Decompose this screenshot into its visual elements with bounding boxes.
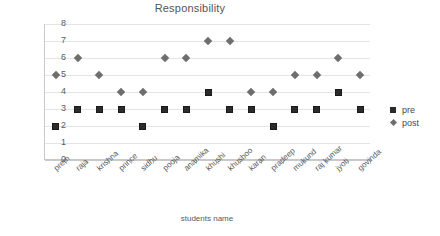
data-point-post	[204, 37, 212, 45]
gridline	[45, 24, 370, 25]
y-axis-tick-label: 4	[38, 86, 66, 96]
y-axis-tick-label: 7	[38, 35, 66, 45]
data-point-pre	[270, 123, 277, 130]
data-point-post	[182, 54, 190, 62]
data-point-post	[247, 88, 255, 96]
y-axis-tick-label: 6	[38, 52, 66, 62]
legend-label-pre: pre	[402, 105, 415, 115]
data-point-pre	[335, 89, 342, 96]
data-point-pre	[313, 106, 320, 113]
gridline	[45, 109, 370, 110]
data-point-pre	[161, 106, 168, 113]
gridline	[45, 143, 370, 144]
data-point-pre	[291, 106, 298, 113]
y-axis-tick-label: 5	[38, 69, 66, 79]
data-point-post	[73, 54, 81, 62]
data-point-post	[291, 71, 299, 79]
diamond-marker-icon	[388, 120, 398, 125]
data-point-pre	[226, 106, 233, 113]
y-axis-title: TestScore	[0, 28, 1, 64]
data-point-pre	[118, 106, 125, 113]
gridline	[45, 75, 370, 76]
gridline	[45, 126, 370, 127]
data-point-post	[269, 88, 277, 96]
data-point-pre	[96, 106, 103, 113]
data-point-post	[117, 88, 125, 96]
y-axis-tick-label: 1	[38, 137, 66, 147]
square-marker-icon	[388, 107, 398, 113]
data-point-pre	[74, 106, 81, 113]
y-axis-tick-label: 2	[38, 120, 66, 130]
data-point-post	[95, 71, 103, 79]
data-point-post	[334, 54, 342, 62]
data-point-post	[225, 37, 233, 45]
data-point-pre	[205, 89, 212, 96]
x-axis-title: students name	[44, 214, 370, 223]
data-point-pre	[139, 123, 146, 130]
y-axis-tick-label: 8	[38, 18, 66, 28]
data-point-post	[139, 88, 147, 96]
legend-item-pre[interactable]: pre	[388, 103, 419, 116]
legend-item-post[interactable]: post	[388, 116, 419, 129]
data-point-pre	[357, 106, 364, 113]
legend-label-post: post	[402, 118, 419, 128]
data-point-post	[356, 71, 364, 79]
data-point-post	[312, 71, 320, 79]
data-point-pre	[183, 106, 190, 113]
data-point-post	[160, 54, 168, 62]
y-axis-tick-label: 3	[38, 103, 66, 113]
chart-legend: pre post	[388, 103, 419, 129]
chart-container: Responsibility TestScore students name p…	[0, 0, 440, 236]
gridline	[45, 58, 370, 59]
plot-area	[44, 24, 370, 160]
data-point-pre	[248, 106, 255, 113]
chart-title: Responsibility	[0, 2, 380, 14]
